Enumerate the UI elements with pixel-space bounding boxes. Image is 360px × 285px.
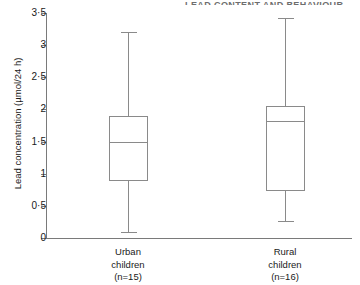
y-tick-label: 1 [40,169,46,179]
box-plot-figure: LEAD CONTENT AND BEHAVIOUR Lead concentr… [0,0,360,285]
x-category-line: Rural [235,246,335,259]
y-tick-label: 0·5 [32,201,46,211]
x-category-line: children [235,259,335,272]
y-tick-label: 3·5 [32,8,46,18]
box-iqr-rect [267,107,305,191]
x-category-line: Urban [78,246,178,259]
box-plot-series [110,33,148,233]
axis-group [41,13,352,239]
x-category-label-urban: Urban children (n=15) [78,246,178,284]
y-tick-label: 3 [40,40,46,50]
x-category-line: (n=15) [78,271,178,284]
page-header-cut-text: LEAD CONTENT AND BEHAVIOUR [185,0,360,5]
x-category-line: (n=16) [235,271,335,284]
x-category-line: children [78,259,178,272]
boxes-group [110,19,305,233]
box-plot-series [267,19,305,222]
y-tick-label: 2·5 [32,72,46,82]
y-tick-label: 2 [40,104,46,114]
x-category-label-rural: Rural children (n=16) [235,246,335,284]
y-tick-label: 1·5 [32,137,46,147]
box-iqr-rect [110,117,148,181]
y-axis-tick-labels: 3·5 3 2·5 2 1·5 1 0·5 0 [20,0,46,285]
y-tick-label: 0 [40,233,46,243]
plot-area [0,0,360,285]
